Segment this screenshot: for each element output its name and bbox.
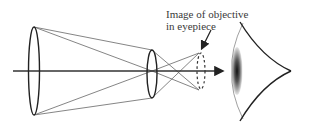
optics-diagram: Image of objective in eyepiece	[0, 0, 309, 126]
diagram-canvas	[0, 0, 309, 126]
annotation-line-2: in eyepiece	[166, 20, 248, 32]
eyepiece-lens-icon	[147, 50, 157, 98]
annotation-label: Image of objective in eyepiece	[166, 8, 248, 32]
annotation-line-1: Image of objective	[166, 8, 248, 20]
eye-icon	[232, 22, 292, 121]
annotation-pointer	[202, 30, 211, 48]
